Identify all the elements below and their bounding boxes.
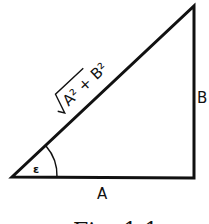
triangle (12, 6, 194, 178)
right-triangle-diagram: ε A B A² + B² Fig. 1.1 (0, 0, 209, 224)
angle-arc (46, 146, 57, 177)
base-label: A (97, 185, 108, 203)
figure-caption: Fig. 1.1 (73, 218, 158, 224)
height-label: B (197, 89, 207, 107)
angle-label: ε (33, 163, 39, 176)
hypotenuse-label: A² + B² (48, 56, 111, 117)
